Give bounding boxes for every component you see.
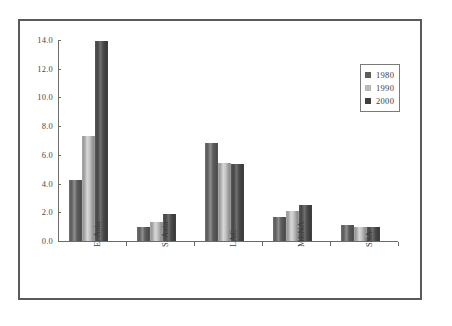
y-axis-tick-label: 14.0 — [20, 34, 58, 46]
bar-group — [137, 40, 176, 241]
x-axis-category-label: S. Asia — [160, 222, 170, 248]
legend-item[interactable]: 2000 — [365, 95, 394, 107]
legend-item[interactable]: 1980 — [365, 69, 394, 81]
y-axis-tick-label: 12.0 — [20, 63, 58, 75]
x-axis-category-label: MENA — [296, 221, 306, 247]
bar-1980[interactable] — [273, 217, 286, 241]
x-axis-category-label: SSA — [364, 231, 374, 247]
bar-1980[interactable] — [341, 225, 354, 241]
bar-1980[interactable] — [137, 227, 150, 241]
bar-2000[interactable] — [95, 41, 108, 241]
x-axis-tick-mark — [194, 242, 195, 246]
legend-item[interactable]: 1990 — [365, 82, 394, 94]
y-axis-tick-label: 6.0 — [20, 149, 58, 161]
legend-item-label: 1980 — [376, 70, 394, 80]
y-axis-tick-mark — [58, 97, 61, 98]
legend-item-label: 2000 — [376, 96, 394, 106]
legend-swatch-icon — [365, 85, 371, 91]
y-axis-tick-mark — [58, 69, 61, 70]
x-axis-category-label: E. Asia — [92, 221, 102, 247]
x-axis-tick-mark — [126, 242, 127, 246]
y-axis-tick-label: 4.0 — [20, 178, 58, 190]
x-axis-tick-mark — [262, 242, 263, 246]
bar-1980[interactable] — [69, 180, 82, 241]
y-axis-tick-mark — [58, 126, 61, 127]
y-axis-tick-mark — [58, 155, 61, 156]
bar-group — [273, 40, 312, 241]
y-axis-tick-label: 10.0 — [20, 91, 58, 103]
x-axis-category-label: LAC — [228, 229, 238, 247]
legend-swatch-icon — [365, 98, 371, 104]
x-axis-tick-mark — [330, 242, 331, 246]
y-axis-tick-mark — [58, 212, 61, 213]
y-axis-tick-label: 8.0 — [20, 120, 58, 132]
y-axis-tick-mark — [58, 241, 61, 242]
y-axis-tick-label: 0.0 — [20, 235, 58, 247]
chart-figure-frame: 0.02.04.06.08.010.012.014.0 E. AsiaS. As… — [18, 19, 422, 300]
chart-legend: 1980 1990 2000 — [360, 64, 400, 112]
legend-swatch-icon — [365, 72, 371, 78]
legend-item-label: 1990 — [376, 83, 394, 93]
bar-group — [69, 40, 108, 241]
bar-1980[interactable] — [205, 143, 218, 241]
y-axis-tick-mark — [58, 184, 61, 185]
y-axis-tick-mark — [58, 40, 61, 41]
bar-group — [205, 40, 244, 241]
x-axis-tick-mark — [398, 242, 399, 246]
y-axis-tick-label: 2.0 — [20, 206, 58, 218]
